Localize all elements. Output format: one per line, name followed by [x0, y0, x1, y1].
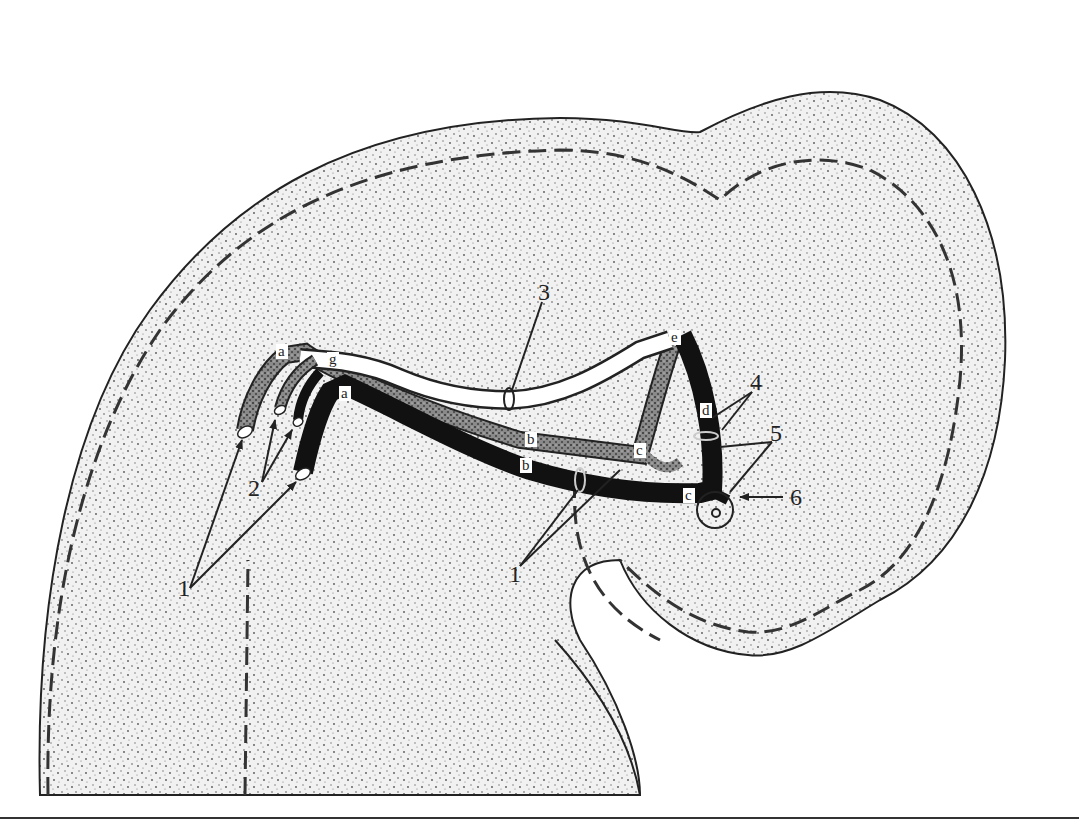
anatomy-illustration: 1 2 3 1 4 5 6 a g a b b c c d e	[0, 0, 1079, 829]
label-3: 3	[538, 279, 550, 305]
label-a-hatched: a	[278, 343, 285, 359]
label-g: g	[329, 351, 337, 367]
label-2: 2	[248, 475, 260, 501]
label-c-black: c	[685, 487, 692, 503]
label-1-left: 1	[178, 575, 190, 601]
diagram-canvas: 1 2 3 1 4 5 6 a g a b b c c d e	[0, 0, 1079, 829]
label-d: d	[702, 402, 710, 418]
label-e: e	[671, 329, 678, 345]
label-1-center: 1	[509, 561, 521, 587]
label-a-black: a	[341, 385, 348, 401]
label-6: 6	[790, 484, 802, 510]
label-b-black: b	[522, 457, 530, 473]
label-b-hatched: b	[527, 431, 535, 447]
label-5: 5	[770, 420, 782, 446]
label-4: 4	[750, 369, 762, 395]
label-c-hatched: c	[636, 442, 643, 458]
